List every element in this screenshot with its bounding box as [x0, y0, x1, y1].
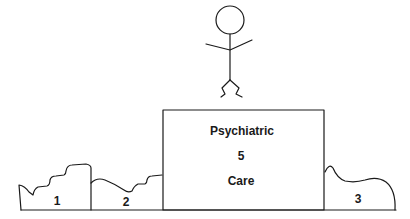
block-2-label: 2	[123, 195, 130, 209]
block-3: 3	[325, 166, 395, 210]
block-5-label: 5	[238, 149, 245, 163]
figure-head	[216, 6, 244, 34]
block-3-label: 3	[355, 192, 362, 206]
block-5-title-bottom: Care	[228, 174, 255, 188]
block-1-label: 1	[54, 194, 61, 208]
block-5: Psychiatric 5 Care	[163, 110, 324, 210]
block-2-outline	[91, 175, 162, 192]
block-5-title-top: Psychiatric	[210, 124, 274, 138]
block-1: 1	[19, 164, 91, 210]
diagram-canvas: 1 2 Psychiatric 5 Care 3	[0, 0, 410, 219]
figure-left-leg	[221, 80, 230, 97]
block-2: 2	[91, 175, 162, 209]
figure-arms	[206, 40, 252, 50]
figure-right-leg	[230, 80, 242, 97]
stick-figure	[206, 6, 252, 97]
